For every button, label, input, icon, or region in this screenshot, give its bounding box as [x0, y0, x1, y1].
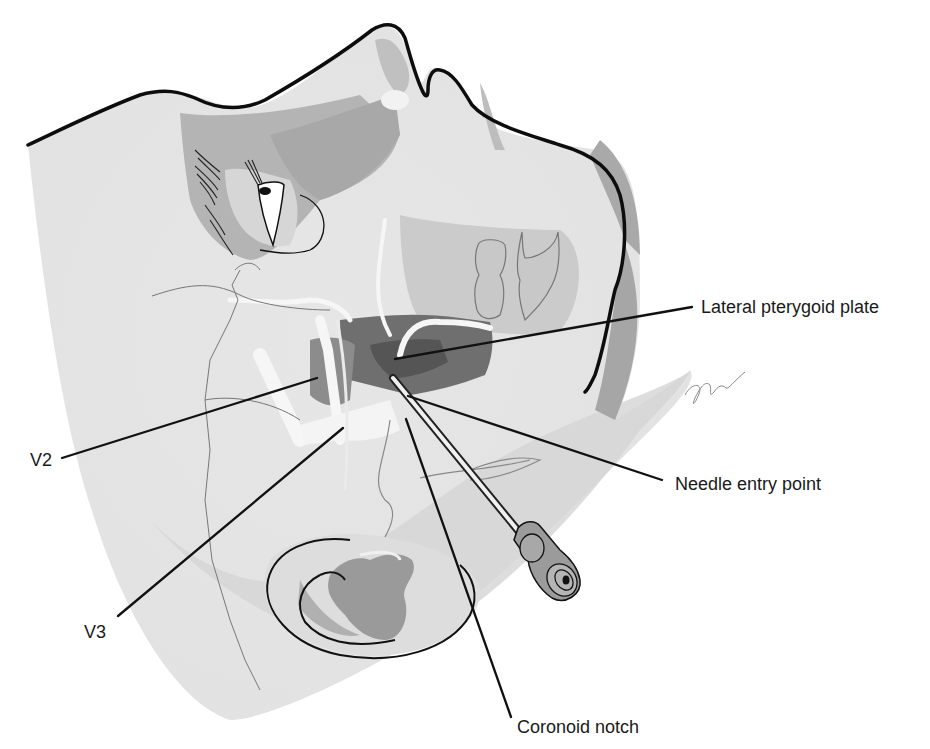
head-drawing — [0, 0, 930, 749]
label-needle-entry-point: Needle entry point — [675, 475, 821, 493]
hub-ring-1 — [520, 534, 544, 562]
label-lateral-pterygoid-plate: Lateral pterygoid plate — [701, 298, 879, 316]
nose-highlight — [381, 90, 409, 110]
pupil — [259, 187, 271, 195]
hub-bore — [563, 576, 570, 585]
label-v2: V2 — [30, 451, 52, 469]
artist-signature — [685, 372, 745, 403]
anatomical-illustration: Lateral pterygoid plate Needle entry poi… — [0, 0, 930, 749]
label-coronoid-notch: Coronoid notch — [517, 718, 639, 736]
label-v3: V3 — [84, 623, 106, 641]
